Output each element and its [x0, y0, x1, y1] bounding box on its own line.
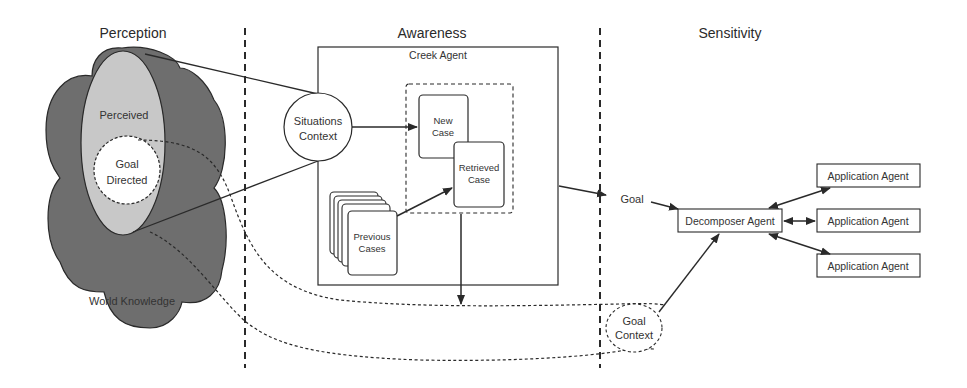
retrieved-case-label-2: Case: [468, 174, 490, 185]
retrieved-case-label-1: Retrieved: [459, 162, 500, 173]
perceived-label: Perceived: [100, 109, 149, 121]
goal-context-node[interactable]: [606, 304, 662, 352]
section-title-awareness: Awareness: [397, 25, 466, 41]
situations-context-label-2: Context: [299, 130, 337, 142]
arrow-goal-context-to-decomposer: [659, 234, 719, 312]
application-agent-label-1: Application Agent: [827, 170, 908, 182]
arrow-goal-to-decomposer: [651, 202, 678, 209]
new-case-label-1: New: [433, 115, 452, 126]
goal-context-label-1: Goal: [622, 315, 645, 327]
application-agent-label-3: Application Agent: [827, 260, 908, 272]
previous-cases-label-2: Cases: [359, 243, 386, 254]
section-title-perception: Perception: [100, 25, 167, 41]
new-case-label-2: Case: [432, 127, 454, 138]
goal-directed-label-2: Directed: [107, 174, 148, 186]
decomposer-agent-label: Decomposer Agent: [685, 215, 774, 227]
goal-label: Goal: [620, 193, 643, 205]
arrow-previous-to-retrieved: [397, 188, 452, 216]
application-agent-label-2: Application Agent: [827, 215, 908, 227]
situations-context-node[interactable]: [284, 93, 352, 161]
world-knowledge-label: World Knowledge: [89, 295, 175, 307]
diagram-canvas: Perception Awareness Sensitivity World K…: [0, 0, 967, 388]
goal-directed-region: [94, 136, 160, 204]
previous-cases-label-1: Previous: [354, 231, 391, 242]
section-title-sensitivity: Sensitivity: [698, 25, 761, 41]
goal-directed-label-1: Goal: [115, 158, 138, 170]
arrow-creek-to-goal: [559, 186, 606, 195]
creek-agent-label: Creek Agent: [409, 49, 467, 61]
arrow-decomposer-app-agent-1: [769, 188, 830, 208]
goal-context-label-2: Context: [615, 329, 653, 341]
situations-context-label-1: Situations: [294, 115, 343, 127]
arrow-decomposer-app-agent-3: [769, 234, 830, 254]
